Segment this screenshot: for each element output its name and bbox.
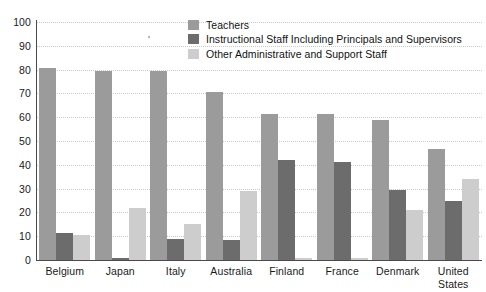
bar [372,120,389,260]
bar [278,160,295,260]
bar [223,240,240,260]
legend-label: Teachers [206,19,249,31]
x-axis-line [36,260,482,261]
legend-item: Other Administrative and Support Staff [188,47,462,60]
bar [334,162,351,260]
legend-item: Teachers [188,18,462,31]
y-axis-tick-label: 100 [1,16,31,28]
x-axis-category-label: Japan [93,265,149,278]
x-axis-category-label: Italy [148,265,204,278]
x-axis-category-label: United States [426,265,482,290]
bar [206,92,223,260]
legend-label: Other Administrative and Support Staff [206,48,387,60]
bar [295,258,312,260]
y-axis-tick-label: 80 [1,64,31,76]
y-axis-tick-label: 30 [1,183,31,195]
bar [406,210,423,260]
x-axis-category-label: France [315,265,371,278]
legend-swatch-icon [188,49,199,59]
legend-swatch-icon [188,34,199,44]
legend-label: Instructional Staff Including Principals… [206,33,462,45]
bar [150,71,167,260]
x-axis-category-label: Belgium [37,265,93,278]
bar-group [37,22,93,260]
legend-swatch-icon [188,20,199,30]
y-axis-tick-label: 90 [1,40,31,52]
bar [240,191,257,260]
y-axis-tick-label: 70 [1,87,31,99]
y-axis-tick-label: 60 [1,111,31,123]
x-axis-category-label: Denmark [370,265,426,278]
x-axis-category-label: Finland [259,265,315,278]
bar [261,114,278,260]
bar [389,190,406,260]
y-axis-tick-label: 40 [1,159,31,171]
y-axis-tick-label: 50 [1,135,31,147]
bar [95,71,112,260]
speck-artifact [148,36,150,38]
bar [56,233,73,260]
bar [129,208,146,260]
bar [351,258,368,260]
legend-item: Instructional Staff Including Principals… [188,33,462,46]
bar-group [93,22,149,260]
bar-chart: 0102030405060708090100 BelgiumJapanItaly… [0,0,486,292]
y-axis-tick-label: 0 [1,254,31,266]
bar [317,114,334,260]
bar [73,235,90,260]
chart-legend: TeachersInstructional Staff Including Pr… [188,18,462,62]
bar [428,149,445,260]
bar [462,179,479,260]
bar [112,258,129,260]
bar [445,201,462,261]
bar [184,224,201,260]
bar [39,68,56,260]
y-axis-tick-label: 10 [1,230,31,242]
bar [167,239,184,260]
x-axis-category-label: Australia [204,265,260,278]
y-axis-tick-label: 20 [1,206,31,218]
